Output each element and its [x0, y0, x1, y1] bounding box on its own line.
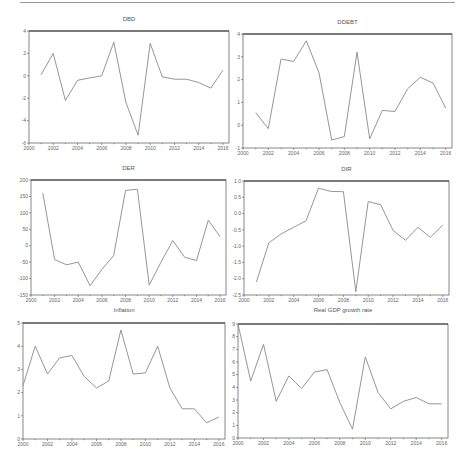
x-tick-label: 2000 — [232, 440, 243, 446]
y-tick-label: 5 — [232, 371, 235, 377]
y-tick-label: 3 — [17, 366, 20, 372]
x-tick-label: 2004 — [73, 297, 84, 303]
y-tick-label: 4 — [237, 31, 240, 37]
x-tick-label: 2006 — [313, 297, 324, 303]
y-tick-label: -100 — [18, 275, 28, 281]
series-line-der — [43, 189, 220, 286]
y-tick-label: -0.5 — [232, 227, 241, 233]
x-tick-label: 2002 — [42, 441, 53, 447]
x-tick-label: 2012 — [389, 150, 400, 156]
y-tick-label: 0 — [25, 242, 28, 248]
y-tick-label: 100 — [20, 210, 29, 216]
x-tick-label: 2002 — [258, 440, 269, 446]
x-tick-label: 2016 — [213, 441, 224, 447]
x-tick-label: 2008 — [120, 145, 131, 151]
series-line-dir — [256, 188, 442, 292]
chart-inflation: 0123452000200220042006200820102012201420… — [17, 320, 225, 447]
series-line-inflation — [23, 330, 219, 423]
y-tick-label: 4 — [232, 384, 235, 390]
y-tick-label: 2 — [232, 409, 235, 415]
chart-dbd: -6-4-20242000200220042006200820102012201… — [22, 28, 229, 151]
y-tick-label: 0 — [23, 73, 26, 79]
x-tick-label: 2004 — [288, 297, 299, 303]
y-tick-label: 1 — [237, 99, 240, 105]
x-tick-label: 2006 — [96, 297, 107, 303]
y-tick-label: 1 — [232, 422, 235, 428]
y-tick-label: -1.0 — [232, 243, 241, 249]
x-tick-label: 2000 — [23, 145, 34, 151]
y-tick-label: 2 — [17, 389, 20, 395]
series-line-ddebt — [256, 41, 446, 140]
x-tick-label: 2010 — [363, 297, 374, 303]
y-tick-label: 9 — [232, 321, 235, 327]
y-tick-label: -4 — [22, 117, 27, 123]
x-tick-label: 2004 — [283, 440, 294, 446]
x-tick-label: 2000 — [17, 441, 28, 447]
y-tick-label: 0.5 — [234, 194, 241, 200]
x-tick-label: 2014 — [411, 440, 422, 446]
y-tick-label: 50 — [22, 226, 28, 232]
x-tick-label: 2010 — [140, 441, 151, 447]
y-tick-label: 4 — [23, 28, 26, 34]
x-tick-label: 2000 — [237, 150, 248, 156]
x-tick-label: 2006 — [309, 440, 320, 446]
y-tick-label: 3 — [237, 54, 240, 60]
plot-frame — [29, 31, 229, 143]
x-tick-label: 2002 — [263, 297, 274, 303]
x-tick-label: 2002 — [49, 297, 60, 303]
y-tick-label: 4 — [17, 343, 20, 349]
x-tick-label: 2000 — [25, 297, 36, 303]
x-tick-label: 2010 — [145, 145, 156, 151]
plot-frame — [243, 34, 452, 148]
y-tick-label: 200 — [20, 177, 29, 183]
chart-der: -150-100-5005010015020020002002200420062… — [18, 177, 226, 303]
y-tick-label: 8 — [232, 333, 235, 339]
x-tick-label: 2012 — [388, 297, 399, 303]
x-tick-label: 2010 — [144, 297, 155, 303]
x-tick-label: 2016 — [436, 440, 447, 446]
x-tick-label: 2006 — [313, 150, 324, 156]
x-tick-label: 2014 — [412, 297, 423, 303]
x-tick-label: 2004 — [288, 150, 299, 156]
x-tick-label: 2014 — [415, 150, 426, 156]
y-tick-label: 0.0 — [234, 210, 241, 216]
y-tick-label: 0 — [237, 122, 240, 128]
series-line-dbd — [41, 42, 223, 135]
y-tick-label: 2 — [23, 50, 26, 56]
series-line-gdp — [238, 324, 442, 429]
x-tick-label: 2012 — [385, 440, 396, 446]
y-tick-label: -1.5 — [232, 259, 241, 265]
plot-frame — [244, 181, 449, 295]
y-tick-label: 6 — [232, 359, 235, 365]
y-tick-label: 2 — [237, 76, 240, 82]
x-tick-label: 2016 — [437, 297, 448, 303]
y-tick-label: 3 — [232, 397, 235, 403]
y-tick-label: -2.0 — [232, 275, 241, 281]
y-tick-label: 5 — [17, 320, 20, 326]
x-tick-label: 2012 — [169, 145, 180, 151]
chart-gdp: 0123456789200020022004200620082010201220… — [232, 321, 448, 446]
plot-frame — [238, 324, 448, 438]
x-tick-label: 2006 — [96, 145, 107, 151]
x-tick-label: 2016 — [440, 150, 451, 156]
x-tick-label: 2010 — [364, 150, 375, 156]
x-tick-label: 2014 — [191, 297, 202, 303]
x-tick-label: 2008 — [115, 441, 126, 447]
x-tick-label: 2014 — [193, 145, 204, 151]
chart-ddebt: -101234200020022004200620082010201220142… — [236, 31, 452, 156]
y-tick-label: -2 — [22, 95, 27, 101]
x-tick-label: 2008 — [334, 440, 345, 446]
x-tick-label: 2008 — [338, 297, 349, 303]
x-tick-label: 2012 — [164, 441, 175, 447]
x-tick-label: 2002 — [263, 150, 274, 156]
y-tick-label: 1 — [17, 413, 20, 419]
x-tick-label: 2004 — [66, 441, 77, 447]
x-tick-label: 2016 — [217, 145, 228, 151]
y-tick-label: 1.0 — [234, 178, 241, 184]
y-tick-label: 7 — [232, 346, 235, 352]
x-tick-label: 2012 — [167, 297, 178, 303]
x-tick-label: 2002 — [48, 145, 59, 151]
x-tick-label: 2000 — [238, 297, 249, 303]
x-tick-label: 2016 — [215, 297, 226, 303]
y-tick-label: 150 — [20, 193, 29, 199]
